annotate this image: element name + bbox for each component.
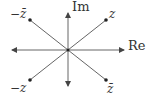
label-neg-z: −z [10,82,26,94]
ray-neg-z [30,50,68,80]
real-axis-label: Re [128,39,145,52]
point-neg-z [28,78,32,82]
ray-neg-conj-z [30,20,68,50]
label-neg-conj-z: −z̄ [10,8,26,20]
point-z [104,18,108,22]
label-conj-z: z̄ [107,83,113,95]
origin-dot [67,49,70,52]
ray-z [68,20,106,50]
ray-conj-z [68,50,106,80]
imag-axis-label: Im [72,0,89,13]
point-neg-conj-z [28,18,32,22]
label-z: z [109,8,115,20]
